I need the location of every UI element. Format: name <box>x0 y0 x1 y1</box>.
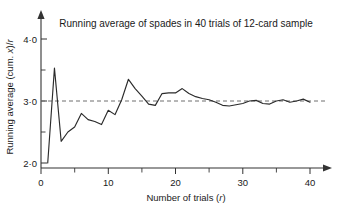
chart-figure: 4·0 3·0 2·0 0 10 20 30 40 Running averag <box>0 0 345 206</box>
y-tick-label-3: 3·0 <box>23 96 37 107</box>
x-tick-label-20: 20 <box>170 177 181 188</box>
x-axis <box>41 164 332 171</box>
x-tick-label-10: 10 <box>103 177 114 188</box>
x-ticks-major <box>41 168 310 174</box>
y-tick-label-2: 2·0 <box>23 158 37 169</box>
chart-svg: 4·0 3·0 2·0 0 10 20 30 40 Running averag <box>0 0 345 206</box>
y-axis-title: Running average (cum. x)/r <box>4 39 15 155</box>
x-tick-label-30: 30 <box>238 177 249 188</box>
y-axis-arrow <box>37 10 44 19</box>
x-axis-title: Number of trials (r) <box>146 192 225 203</box>
y-axis <box>37 10 44 168</box>
x-tick-label-0: 0 <box>38 177 43 188</box>
x-tick-label-40: 40 <box>305 177 316 188</box>
chart-title: Running average of spades in 40 trials o… <box>59 18 313 29</box>
data-series-running-average <box>48 68 310 163</box>
x-axis-arrow <box>323 164 332 171</box>
y-tick-label-4: 4·0 <box>23 34 37 45</box>
